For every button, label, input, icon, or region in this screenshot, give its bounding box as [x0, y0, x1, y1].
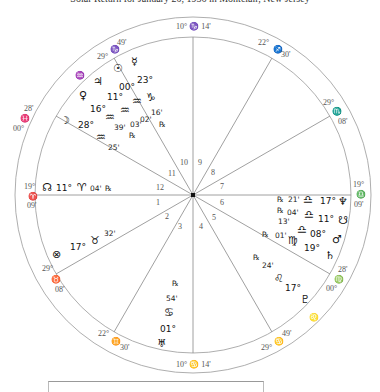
svg-text:54': 54' [166, 294, 178, 303]
svg-text:19°: 19° [304, 243, 320, 253]
planet-neptune: ℞ 21' ♎ 17° ♆ [277, 193, 348, 208]
svg-text:℞: ℞ [105, 184, 112, 193]
svg-text:22°: 22° [98, 329, 109, 338]
svg-text:08°: 08° [310, 229, 326, 239]
svg-text:♍: ♍ [334, 274, 344, 284]
svg-text:28°: 28° [78, 120, 94, 130]
svg-text:09': 09' [27, 201, 37, 210]
svg-text:16': 16' [151, 108, 163, 117]
svg-text:3: 3 [178, 222, 182, 231]
svg-text:11°: 11° [56, 183, 72, 193]
svg-text:10° ♋ 14': 10° ♋ 14' [176, 359, 211, 369]
svg-text:00°: 00° [13, 124, 24, 133]
svg-text:00°: 00° [326, 284, 337, 293]
svg-text:19°: 19° [24, 182, 35, 191]
svg-text:℞: ℞ [159, 120, 166, 129]
svg-text:13': 13' [278, 217, 290, 226]
svg-text:♓: ♓ [20, 113, 30, 123]
svg-text:08': 08' [338, 117, 348, 126]
svg-text:♎: ♎ [297, 223, 307, 236]
svg-text:⊗: ⊗ [52, 248, 61, 261]
svg-text:6: 6 [220, 198, 224, 207]
svg-text:29°: 29° [97, 52, 108, 61]
svg-text:12: 12 [156, 183, 164, 192]
svg-text:♀: ♀ [79, 89, 87, 102]
svg-text:℞: ℞ [277, 206, 284, 215]
svg-text:♈: ♈ [28, 191, 38, 201]
svg-text:4: 4 [199, 222, 203, 231]
svg-text:℞: ℞ [262, 230, 269, 239]
svg-text:8: 8 [211, 168, 215, 177]
svg-text:℞: ℞ [277, 195, 284, 204]
svg-text:24': 24' [262, 261, 274, 270]
planet-uranus: ℞ 54' ♋ 01° ♅ [157, 279, 179, 350]
svg-text:29°: 29° [42, 264, 53, 273]
svg-text:39': 39' [114, 123, 126, 132]
svg-text:17°: 17° [70, 242, 86, 252]
house-numbers: 1 2 3 4 5 6 7 8 9 10 11 12 [156, 158, 224, 231]
svg-text:11°: 11° [107, 92, 123, 102]
svg-text:♆: ♆ [338, 195, 348, 208]
svg-text:7: 7 [220, 182, 224, 191]
svg-text:℞: ℞ [172, 279, 179, 288]
svg-text:♒: ♒ [132, 95, 142, 108]
svg-text:01°: 01° [160, 324, 176, 334]
svg-text:♌: ♌ [274, 272, 284, 285]
svg-text:♎: ♎ [303, 193, 313, 206]
svg-text:10: 10 [180, 158, 188, 167]
svg-text:♄: ♄ [325, 249, 335, 262]
svg-text:09': 09' [354, 200, 364, 209]
svg-text:49': 49' [117, 38, 127, 47]
svg-text:29°: 29° [323, 98, 334, 107]
svg-text:☊: ☊ [42, 181, 52, 194]
svg-text:9: 9 [198, 158, 202, 167]
svg-text:℞: ℞ [129, 131, 136, 140]
svg-text:28': 28' [338, 265, 348, 274]
aspect-grid-box [48, 381, 264, 392]
svg-text:32': 32' [104, 229, 116, 238]
svg-text:16°: 16° [90, 104, 106, 114]
svg-text:11°: 11° [318, 214, 334, 224]
svg-text:19°: 19° [353, 180, 364, 189]
svg-text:11: 11 [168, 169, 176, 178]
svg-text:28': 28' [24, 104, 34, 113]
svg-text:♒: ♒ [120, 104, 130, 117]
svg-text:2: 2 [165, 212, 169, 221]
svg-text:☉: ☉ [113, 62, 123, 75]
svg-text:49': 49' [282, 329, 292, 338]
svg-text:22°: 22° [258, 38, 269, 47]
svg-text:04': 04' [287, 208, 299, 217]
svg-text:17°: 17° [320, 196, 336, 206]
svg-text:10° ♑ 14': 10° ♑ 14' [176, 21, 211, 31]
svg-text:☽: ☽ [60, 114, 70, 127]
center-point [191, 193, 195, 197]
planet-north-node: ☊ 11° ♈ 04' ℞ [42, 181, 112, 194]
svg-text:03': 03' [130, 120, 142, 129]
svg-text:23°: 23° [137, 75, 153, 85]
svg-text:℞: ℞ [253, 253, 260, 262]
svg-text:01': 01' [275, 231, 287, 240]
intercepted-sign-aquarius: ♒ [75, 70, 85, 80]
svg-text:♋: ♋ [164, 306, 174, 319]
svg-text:1: 1 [156, 198, 160, 207]
svg-text:♂: ♂ [332, 233, 342, 246]
svg-text:♅: ♅ [157, 337, 167, 350]
svg-text:25': 25' [108, 143, 120, 152]
svg-text:☿: ☿ [131, 55, 138, 68]
svg-text:♑: ♑ [146, 91, 156, 104]
svg-text:30': 30' [120, 343, 130, 352]
svg-text:♈: ♈ [77, 181, 87, 194]
svg-text:08': 08' [55, 285, 65, 294]
svg-text:30': 30' [281, 50, 291, 59]
svg-text:02': 02' [140, 115, 152, 124]
svg-text:♎: ♎ [304, 208, 314, 221]
planet-pluto: ℞ 24' ♌ 17° ♇ [253, 253, 310, 306]
svg-text:♎: ♎ [356, 189, 366, 199]
svg-text:♇: ♇ [300, 293, 310, 306]
svg-text:04': 04' [90, 184, 102, 193]
svg-text:5: 5 [212, 213, 216, 222]
svg-text:☋: ☋ [338, 214, 348, 227]
svg-text:♒: ♒ [96, 131, 106, 144]
svg-text:♉: ♉ [51, 274, 61, 284]
